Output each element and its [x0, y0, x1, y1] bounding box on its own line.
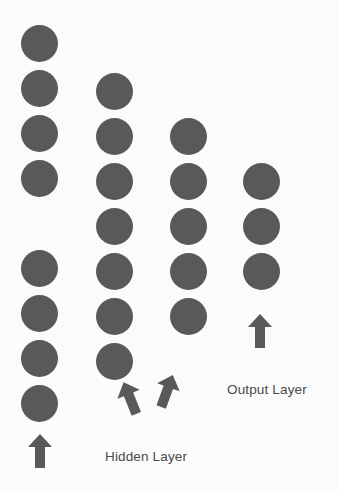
node	[96, 73, 133, 110]
node	[21, 385, 58, 422]
node	[96, 298, 133, 335]
hidden-arrow-right-icon	[150, 371, 184, 411]
node	[170, 208, 207, 245]
node	[96, 118, 133, 155]
node	[96, 343, 133, 380]
node	[243, 163, 280, 200]
node	[96, 163, 133, 200]
node	[96, 208, 133, 245]
node	[96, 253, 133, 290]
hidden-arrow-left-icon	[113, 378, 148, 419]
node	[170, 253, 207, 290]
output-layer-label: Output Layer	[227, 383, 307, 397]
node	[170, 163, 207, 200]
node	[21, 340, 58, 377]
node	[170, 118, 207, 155]
hidden-layer-label: Hidden Layer	[105, 450, 187, 464]
node	[21, 250, 58, 287]
node	[243, 208, 280, 245]
node	[21, 70, 58, 107]
node	[21, 160, 58, 197]
node	[21, 115, 58, 152]
output-arrow-icon	[248, 314, 272, 348]
node	[243, 253, 280, 290]
neural-network-diagram: Hidden Layer Output Layer	[0, 0, 338, 493]
node	[170, 298, 207, 335]
node	[21, 25, 58, 62]
node	[21, 295, 58, 332]
input-arrow-icon	[28, 434, 52, 468]
